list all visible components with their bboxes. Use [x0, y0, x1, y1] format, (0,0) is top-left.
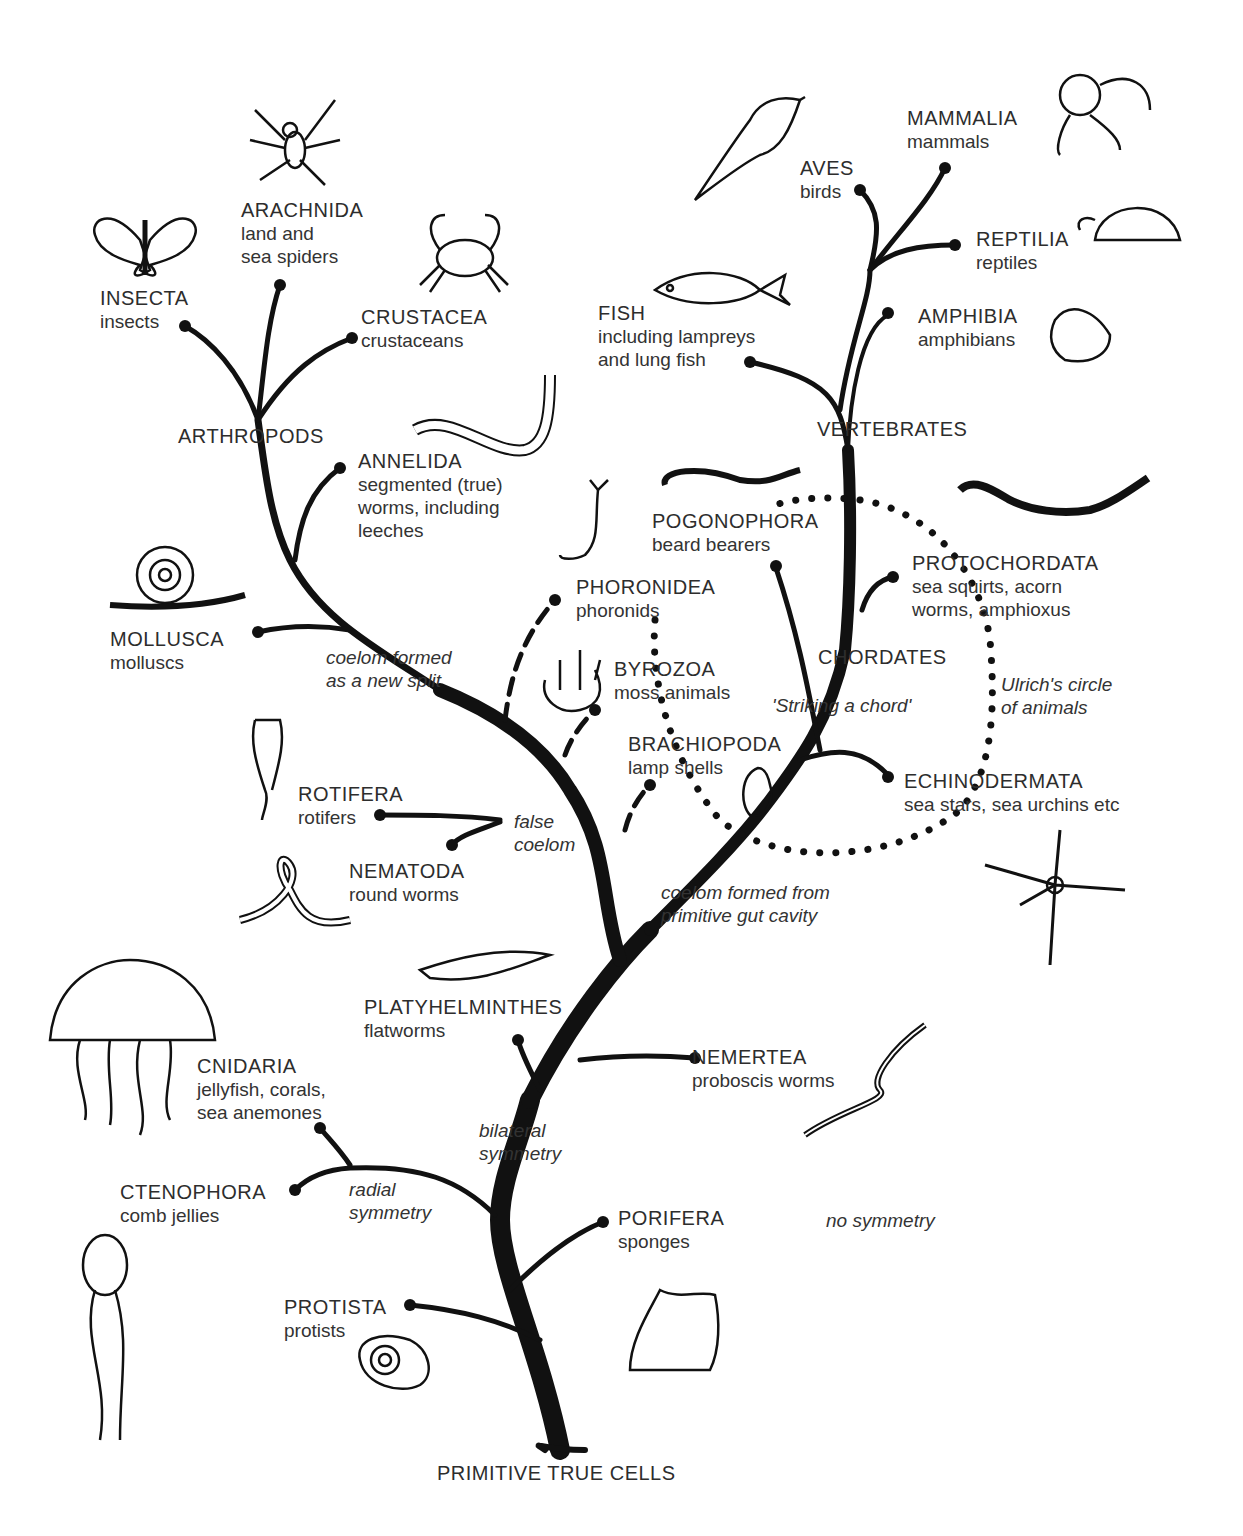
taxon-common: leeches [358, 519, 503, 542]
note-no-symmetry: no symmetry [826, 1209, 935, 1232]
taxon-common: protists [284, 1319, 387, 1342]
taxon-name: ECHINODERMATA [904, 770, 1119, 793]
taxon-common: worms, including [358, 496, 503, 519]
taxon-name: CTENOPHORA [120, 1181, 266, 1204]
taxon-phoronidea: PHORONIDEA phoronids [576, 576, 715, 622]
taxon-common: sea stars, sea urchins etc [904, 793, 1119, 816]
taxon-name: FISH [598, 302, 755, 325]
taxon-cnidaria: CNIDARIA jellyfish, corals, sea anemones [197, 1055, 326, 1124]
taxon-common: and lung fish [598, 348, 755, 371]
taxon-common: reptiles [976, 251, 1069, 274]
taxon-common: segmented (true) [358, 473, 503, 496]
taxon-common: beard bearers [652, 533, 819, 556]
taxon-common: insects [100, 310, 189, 333]
evolution-tree-diagram: PRIMITIVE TRUE CELLS ARTHROPODS VERTEBRA… [0, 0, 1243, 1536]
monkey-icon [1058, 75, 1150, 155]
taxon-platyhelminthes: PLATYHELMINTHES flatworms [364, 996, 562, 1042]
taxon-name: NEMERTEA [692, 1046, 835, 1069]
comb-jelly-icon [83, 1235, 127, 1440]
note-false-coelom: false coelom [514, 810, 575, 856]
taxon-common: land and [241, 222, 363, 245]
group-chordates: CHORDATES [818, 646, 947, 669]
taxon-mammalia: MAMMALIA mammals [907, 107, 1018, 153]
taxon-common: including lampreys [598, 325, 755, 348]
taxon-protochordata: PROTOCHORDATA sea squirts, acorn worms, … [912, 552, 1099, 621]
taxon-name: ARACHNIDA [241, 199, 363, 222]
taxon-annelida: ANNELIDA segmented (true) worms, includi… [358, 450, 503, 542]
taxon-porifera: PORIFERA sponges [618, 1207, 724, 1253]
taxon-rotifera: ROTIFERA rotifers [298, 783, 403, 829]
phoronid-icon [560, 480, 608, 559]
snail-icon [110, 547, 245, 607]
taxon-common: sea squirts, acorn [912, 575, 1099, 598]
spider-icon [250, 100, 340, 185]
note-coelom-new-split: coelom formed as a new split [326, 646, 452, 692]
jellyfish-icon [50, 960, 215, 1135]
fish-icon [655, 273, 790, 305]
butterfly-icon [94, 219, 196, 276]
taxon-amphibia: AMPHIBIA amphibians [918, 305, 1018, 351]
taxon-pogonophora: POGONOPHORA beard bearers [652, 510, 819, 556]
taxon-name: MAMMALIA [907, 107, 1018, 130]
taxon-common: phoronids [576, 599, 715, 622]
taxon-name: AVES [800, 157, 854, 180]
note-ulrich-circle: Ulrich's circle of animals [1001, 673, 1112, 719]
taxon-ctenophora: CTENOPHORA comb jellies [120, 1181, 266, 1227]
taxon-name: PORIFERA [618, 1207, 724, 1230]
note-striking-chord: 'Striking a chord' [772, 694, 911, 717]
note-coelom-gut: coelom formed from primitive gut cavity [661, 881, 830, 927]
taxon-protista: PROTISTA protists [284, 1296, 387, 1342]
frog-icon [1051, 309, 1110, 361]
taxon-name: PLATYHELMINTHES [364, 996, 562, 1019]
taxon-name: ROTIFERA [298, 783, 403, 806]
taxon-common: sea anemones [197, 1101, 326, 1124]
taxon-nematoda: NEMATODA round worms [349, 860, 465, 906]
crab-icon [420, 215, 508, 292]
flatworm-icon [420, 952, 550, 980]
taxon-common: jellyfish, corals, [197, 1078, 326, 1101]
taxon-byrozoa: BYROZOA moss animals [614, 658, 730, 704]
acorn-worm-icon [960, 478, 1148, 512]
taxon-common: mammals [907, 130, 1018, 153]
taxon-name: PROTOCHORDATA [912, 552, 1099, 575]
beard-worm-icon [665, 470, 800, 485]
brittle-star-icon [985, 830, 1125, 965]
taxon-common: flatworms [364, 1019, 562, 1042]
taxon-fish: FISH including lampreys and lung fish [598, 302, 755, 371]
root-label: PRIMITIVE TRUE CELLS [437, 1462, 676, 1485]
taxon-name: MOLLUSCA [110, 628, 224, 651]
taxon-echinodermata: ECHINODERMATA sea stars, sea urchins etc [904, 770, 1119, 816]
sponge-icon [630, 1290, 718, 1370]
taxon-common: amphibians [918, 328, 1018, 351]
taxon-common: comb jellies [120, 1204, 266, 1227]
taxon-common: lamp shells [628, 756, 781, 779]
taxon-common: sponges [618, 1230, 724, 1253]
taxon-name: POGONOPHORA [652, 510, 819, 533]
bryozoan-icon [544, 650, 600, 711]
taxon-common: sea spiders [241, 245, 363, 268]
taxon-common: moss animals [614, 681, 730, 704]
taxon-name: PROTISTA [284, 1296, 387, 1319]
taxon-name: NEMATODA [349, 860, 465, 883]
group-vertebrates: VERTEBRATES [817, 418, 967, 441]
group-arthropods: ARTHROPODS [178, 425, 324, 448]
taxon-mollusca: MOLLUSCA molluscs [110, 628, 224, 674]
taxon-name: REPTILIA [976, 228, 1069, 251]
taxon-aves: AVES birds [800, 157, 854, 203]
taxon-name: BRACHIOPODA [628, 733, 781, 756]
taxon-brachiopoda: BRACHIOPODA lamp shells [628, 733, 781, 779]
taxon-name: INSECTA [100, 287, 189, 310]
taxon-common: molluscs [110, 651, 224, 674]
taxon-name: PHORONIDEA [576, 576, 715, 599]
note-bilateral-symmetry: bilateral symmetry [479, 1119, 561, 1165]
taxon-crustacea: CRUSTACEA crustaceans [361, 306, 487, 352]
taxon-name: ANNELIDA [358, 450, 503, 473]
taxon-common: rotifers [298, 806, 403, 829]
bird-icon [695, 97, 805, 200]
taxon-reptilia: REPTILIA reptiles [976, 228, 1069, 274]
taxon-name: CRUSTACEA [361, 306, 487, 329]
note-radial-symmetry: radial symmetry [349, 1178, 431, 1224]
taxon-insecta: INSECTA insects [100, 287, 189, 333]
tortoise-icon [1079, 208, 1180, 240]
rotifer-icon [253, 720, 282, 820]
